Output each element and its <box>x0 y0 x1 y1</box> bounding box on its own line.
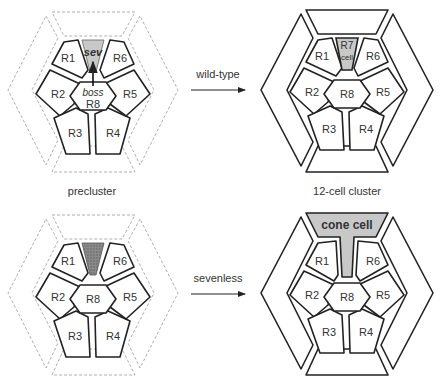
cell-label-r1: R1 <box>61 255 75 267</box>
cell-label-r8: R8 <box>340 88 354 100</box>
cell-label-r3: R3 <box>68 127 82 139</box>
twelve-cell-cluster-diagram: R7 cell R1 R2 R3 R4 R5 R6 R8 <box>261 10 433 172</box>
cell-label-r2: R2 <box>305 86 319 98</box>
cell-label-r8: R8 <box>86 293 100 305</box>
cell-label-r6: R6 <box>113 255 127 267</box>
cell-label-r3: R3 <box>68 330 82 342</box>
cell-label-r8: R8 <box>340 291 354 303</box>
precluster-sevenless-diagram: R1 R2 R3 R4 R5 R6 R8 <box>8 215 178 375</box>
wild-type-label: wild-type <box>195 68 239 80</box>
r7-label: R7 <box>341 40 354 51</box>
cell-label-r5: R5 <box>376 289 390 301</box>
r7-cell-label: cell <box>341 53 353 62</box>
cell-label-r1: R1 <box>315 50 329 62</box>
cell-label-r2: R2 <box>51 291 65 303</box>
cell-label-r3: R3 <box>322 123 336 135</box>
twelve-cell-cluster-caption: 12-cell cluster <box>313 185 381 197</box>
cell-label-r6: R6 <box>366 255 380 267</box>
cell-label-r6: R6 <box>366 50 380 62</box>
precluster-caption: precluster <box>68 185 117 197</box>
wild-type-arrow: wild-type <box>191 68 245 90</box>
sevenless-label: sevenless <box>194 272 243 284</box>
sevenless-cluster-diagram: cone cell R1 R2 R3 R4 R5 R6 R8 <box>261 213 433 375</box>
cell-label-r1: R1 <box>315 255 329 267</box>
cell-label-r5: R5 <box>123 291 137 303</box>
cell-label-r6: R6 <box>113 52 127 64</box>
cell-label-r2: R2 <box>305 289 319 301</box>
cell-label-r4: R4 <box>106 330 120 342</box>
cell-label-r5: R5 <box>376 86 390 98</box>
boss-label: boss <box>82 87 103 98</box>
cell-label-r4: R4 <box>359 326 373 338</box>
cell-label-r4: R4 <box>359 123 373 135</box>
cell-label-r3: R3 <box>322 326 336 338</box>
cell-label-r5: R5 <box>123 88 137 100</box>
cell-label-r2: R2 <box>51 88 65 100</box>
precluster-wildtype-diagram: sev boss R1 R2 R3 R4 R5 R6 R8 <box>8 12 178 172</box>
sevenless-arrow: sevenless <box>191 272 245 294</box>
cell-label-r1: R1 <box>61 52 75 64</box>
cone-cell-label: cone cell <box>321 218 372 232</box>
sev-label: sev <box>84 46 103 58</box>
cell-label-r8: R8 <box>86 98 100 110</box>
cell-label-r4: R4 <box>106 127 120 139</box>
